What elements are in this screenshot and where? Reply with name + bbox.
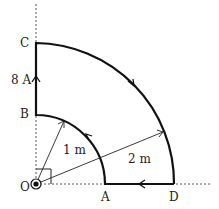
origin-wire-dot [33, 181, 38, 186]
inner-radius-label: 1 m [63, 143, 86, 157]
label-b: B [20, 107, 29, 121]
label-a: A [100, 190, 110, 204]
outer-radius-label: 2 m [128, 152, 151, 166]
label-c: C [20, 36, 29, 50]
arrow-icon-inner-arc [86, 134, 92, 140]
current-label: 8 A [11, 73, 31, 87]
label-o: O [20, 180, 30, 194]
current-loop-diagram: C B O A D 8 A 1 m 2 m [0, 0, 219, 209]
current-loop-wire [36, 43, 174, 184]
label-d: D [169, 190, 179, 204]
